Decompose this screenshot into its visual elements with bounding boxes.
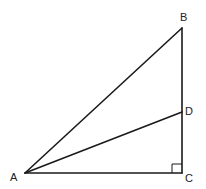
segment-ab bbox=[25, 28, 182, 173]
label-a: A bbox=[10, 171, 18, 183]
label-b: B bbox=[180, 11, 187, 23]
triangle-diagram: B D A C bbox=[0, 0, 206, 189]
label-d: D bbox=[185, 105, 193, 117]
segment-ad bbox=[25, 112, 182, 173]
right-angle-marker bbox=[172, 164, 182, 173]
label-c: C bbox=[185, 172, 193, 184]
